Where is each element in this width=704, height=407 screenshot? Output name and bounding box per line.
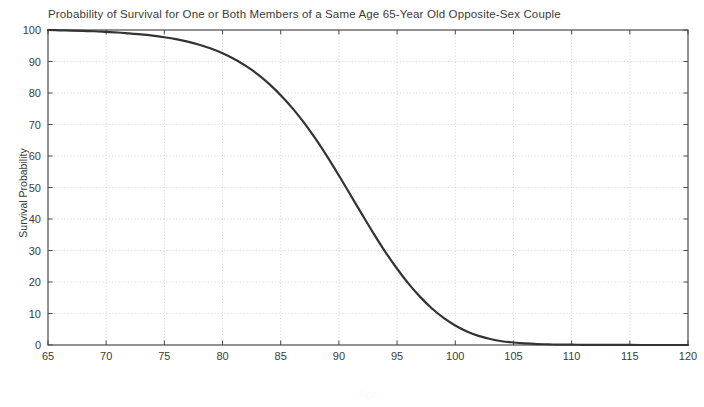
axis-tick-labels: 6570758085909510010511011512001020304050… [23, 24, 698, 362]
x-tick-label: 110 [563, 350, 581, 362]
x-tick-label: 85 [275, 350, 287, 362]
grid-lines [48, 30, 688, 345]
y-tick-label: 80 [29, 87, 41, 99]
x-tick-label: 120 [679, 350, 697, 362]
x-tick-label: 80 [216, 350, 228, 362]
plot-area: 6570758085909510010511011512001020304050… [0, 0, 704, 407]
y-tick-label: 20 [29, 276, 41, 288]
y-tick-label: 60 [29, 150, 41, 162]
y-tick-label: 0 [35, 339, 41, 351]
y-tick-label: 50 [29, 182, 41, 194]
chart-figure: Probability of Survival for One or Both … [0, 0, 704, 407]
y-tick-label: 30 [29, 245, 41, 257]
y-tick-label: 100 [23, 24, 41, 36]
y-tick-label: 10 [29, 308, 41, 320]
y-tick-label: 90 [29, 56, 41, 68]
x-tick-label: 65 [42, 350, 54, 362]
x-tick-label: 100 [446, 350, 464, 362]
x-tick-label: 115 [621, 350, 639, 362]
y-tick-label: 70 [29, 119, 41, 131]
x-tick-label: 75 [158, 350, 170, 362]
x-tick-label: 70 [100, 350, 112, 362]
x-tick-label: 105 [504, 350, 522, 362]
x-tick-label: 90 [333, 350, 345, 362]
y-tick-label: 40 [29, 213, 41, 225]
x-tick-label: 95 [391, 350, 403, 362]
